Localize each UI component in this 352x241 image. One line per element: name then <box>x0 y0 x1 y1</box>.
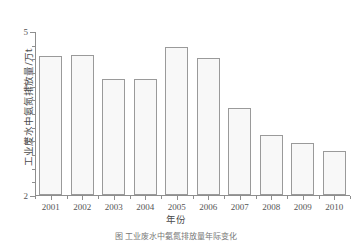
x-tick-minor <box>256 196 257 199</box>
bar <box>39 56 62 195</box>
x-tick-label: 2007 <box>231 202 249 212</box>
y-tick-minor <box>32 155 35 156</box>
x-axis-title: 年份 <box>0 212 352 226</box>
x-tick-minor <box>130 196 131 199</box>
y-tick-major <box>30 87 35 88</box>
y-tick-label: 4 <box>24 82 29 91</box>
x-tick <box>208 196 209 200</box>
x-tick <box>51 196 52 200</box>
y-tick-major <box>30 141 35 142</box>
x-tick-label: 2002 <box>73 202 91 212</box>
x-tick-label: 2010 <box>325 202 343 212</box>
bar <box>102 79 125 195</box>
x-tick-label: 2008 <box>262 202 280 212</box>
x-tick-minor <box>287 196 288 199</box>
y-axis-spine <box>35 32 36 196</box>
x-tick-label: 2006 <box>199 202 217 212</box>
bar <box>291 143 314 195</box>
plot-area: 2345 20012002200320042005200620072008200… <box>35 32 350 196</box>
y-tick-minor <box>32 182 35 183</box>
x-tick <box>271 196 272 200</box>
y-axis-title: 工业废水中氨氮排放量/万t <box>21 22 35 192</box>
y-tick-minor <box>32 46 35 47</box>
bar <box>134 79 157 195</box>
bar <box>228 108 251 195</box>
bar <box>71 55 94 195</box>
x-tick <box>145 196 146 200</box>
y-tick-minor <box>32 169 35 170</box>
x-tick <box>303 196 304 200</box>
y-tick-label: 2 <box>24 192 29 201</box>
x-tick-minor <box>350 196 351 199</box>
y-tick-major <box>30 32 35 33</box>
y-tick-minor <box>32 114 35 115</box>
x-tick <box>177 196 178 200</box>
x-tick-minor <box>67 196 68 199</box>
x-tick <box>334 196 335 200</box>
y-tick-minor <box>32 128 35 129</box>
x-tick-minor <box>319 196 320 199</box>
y-tick-minor <box>32 100 35 101</box>
x-tick-minor <box>35 196 36 199</box>
y-tick-label: 5 <box>24 28 29 37</box>
bar <box>260 135 283 195</box>
x-tick-label: 2004 <box>136 202 154 212</box>
x-tick <box>240 196 241 200</box>
bar <box>323 151 346 195</box>
bar <box>197 58 220 195</box>
x-tick-label: 2005 <box>168 202 186 212</box>
x-tick <box>114 196 115 200</box>
x-tick-minor <box>193 196 194 199</box>
bar <box>165 47 188 195</box>
x-tick-minor <box>98 196 99 199</box>
y-tick-label: 3 <box>24 137 29 146</box>
y-tick-minor <box>32 73 35 74</box>
x-tick-label: 2001 <box>42 202 60 212</box>
x-tick-label: 2009 <box>294 202 312 212</box>
x-tick <box>82 196 83 200</box>
x-tick-label: 2003 <box>105 202 123 212</box>
x-tick-minor <box>224 196 225 199</box>
x-tick-minor <box>161 196 162 199</box>
figure-caption: 图 工业废水中氨氮排放量年际变化 <box>0 230 352 241</box>
y-tick-minor <box>32 59 35 60</box>
